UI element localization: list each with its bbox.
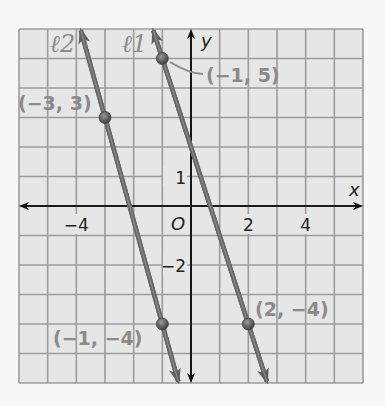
point-label-neg3-3: (−3, 3)	[18, 92, 92, 114]
point-label-neg1-5: (−1, 5)	[206, 64, 280, 86]
point-label-neg1-neg4: (−1, −4)	[53, 327, 142, 349]
point-label-2-neg4: (2, −4)	[255, 298, 329, 320]
origin-label: O	[171, 213, 185, 234]
x-tick-label: −4	[64, 215, 89, 235]
point-marker	[242, 318, 254, 330]
x-tick-label: 4	[300, 215, 311, 235]
y-tick-label: −2	[161, 256, 186, 276]
line-2-name: ℓ2	[50, 30, 75, 58]
point-marker	[99, 112, 111, 124]
x-tick-label: 2	[243, 215, 254, 235]
line-1-name: ℓ1	[122, 30, 147, 58]
coordinate-plane: xyO−4241−2ℓ1ℓ2(−1, 5)(2, −4)(−3, 3)(−1, …	[0, 0, 385, 406]
x-axis-label: x	[348, 179, 360, 200]
y-tick-label: 1	[175, 168, 186, 188]
point-marker	[156, 53, 168, 65]
y-axis-label: y	[200, 30, 212, 51]
point-marker	[156, 318, 168, 330]
